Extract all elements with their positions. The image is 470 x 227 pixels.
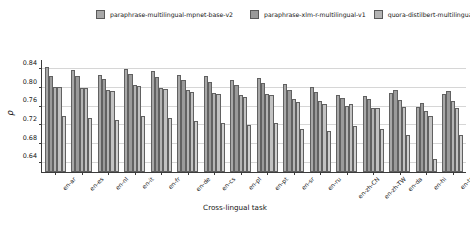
bar-group: [389, 60, 410, 172]
bar-group: [230, 60, 251, 172]
legend-swatch-icon: [374, 10, 383, 19]
x-tick-mark: [161, 172, 162, 175]
x-tick-mark: [188, 172, 189, 175]
x-tick-mark: [267, 172, 268, 175]
x-tick-label: en-cs: [221, 176, 237, 192]
bar-group: [45, 60, 66, 172]
x-tick-label: en-es: [89, 176, 105, 192]
x-tick-label: en-de: [195, 176, 211, 192]
bar: [327, 131, 331, 172]
bar-group: [204, 60, 225, 172]
bar: [194, 121, 198, 172]
bar: [247, 125, 251, 172]
x-axis-label: Cross-lingual task: [0, 203, 470, 212]
x-tick-mark: [108, 172, 109, 175]
x-tick-mark: [214, 172, 215, 175]
bar: [459, 135, 463, 172]
x-tick-label: en-ar: [62, 176, 77, 191]
bar: [221, 123, 225, 172]
bar: [62, 116, 66, 172]
y-tick-mark: [39, 106, 42, 107]
bar: [353, 126, 357, 172]
x-tick-label: en-zh-CN: [357, 176, 381, 200]
x-tick-mark: [241, 172, 242, 175]
x-tick-mark: [82, 172, 83, 175]
x-tick-label: en-hi: [433, 176, 448, 191]
figure: paraphrase-multilingual-mpnet-base-v2par…: [0, 0, 470, 227]
bar: [380, 129, 384, 172]
y-tick-label: 0.84: [23, 60, 37, 66]
x-tick-mark: [320, 172, 321, 175]
bar: [115, 120, 119, 172]
bar: [274, 123, 278, 172]
bar: [168, 118, 172, 172]
y-tick-label: 0.68: [23, 135, 37, 141]
x-tick-label: en-it: [141, 176, 155, 190]
legend-swatch-icon: [96, 10, 105, 19]
x-tick-mark: [426, 172, 427, 175]
x-tick-mark: [400, 172, 401, 175]
bar-group: [442, 60, 463, 172]
y-tick-mark: [39, 143, 42, 144]
x-tick-label: en-fr: [167, 176, 181, 190]
bar-group: [151, 60, 172, 172]
x-tick-label: en-pt: [274, 176, 289, 191]
x-tick-label: en-nl: [115, 176, 130, 191]
chart-legend: paraphrase-multilingual-mpnet-base-v2par…: [96, 8, 470, 20]
legend-item: paraphrase-xlm-r-multilingual-v1: [250, 8, 366, 20]
bar: [141, 116, 145, 172]
y-tick-mark: [39, 87, 42, 88]
bar-group: [336, 60, 357, 172]
x-tick-label: en-sr: [300, 176, 315, 191]
bar-group: [71, 60, 92, 172]
y-axis-label: ρ: [5, 110, 15, 115]
bar-group: [416, 60, 437, 172]
bar: [406, 135, 410, 172]
x-tick-label: en-pl: [247, 176, 262, 191]
legend-item-label: quora-distilbert-multilingual: [388, 11, 470, 18]
y-tick-label: 0.64: [23, 153, 37, 159]
bar-group: [177, 60, 198, 172]
bar-group: [363, 60, 384, 172]
x-tick-mark: [294, 172, 295, 175]
bar-group: [310, 60, 331, 172]
bar: [300, 129, 304, 172]
x-tick-mark: [55, 172, 56, 175]
bar-group: [257, 60, 278, 172]
bar-group: [283, 60, 304, 172]
y-tick-mark: [39, 68, 42, 69]
plot-area: 0.640.680.720.760.800.84: [41, 60, 466, 173]
y-tick-label: 0.76: [23, 97, 37, 103]
y-tick-mark: [39, 124, 42, 125]
legend-item-label: paraphrase-multilingual-mpnet-base-v2: [110, 11, 233, 18]
x-tick-mark: [373, 172, 374, 175]
bar: [88, 118, 92, 172]
x-tick-mark: [453, 172, 454, 175]
x-tick-mark: [135, 172, 136, 175]
legend-item: paraphrase-multilingual-mpnet-base-v2: [96, 8, 242, 20]
x-tick-label: en-da: [407, 176, 423, 192]
x-tick-label: en-zh-TW: [383, 176, 407, 200]
y-tick-label: 0.80: [23, 79, 37, 85]
x-tick-label: en-ru: [327, 176, 343, 192]
y-tick-label: 0.72: [23, 116, 37, 122]
legend-item-label: paraphrase-xlm-r-multilingual-v1: [264, 11, 366, 18]
bar: [433, 159, 437, 172]
x-tick-mark: [347, 172, 348, 175]
bar-group: [124, 60, 145, 172]
y-tick-mark: [39, 162, 42, 163]
bar-group: [98, 60, 119, 172]
legend-item: quora-distilbert-multilingual: [374, 8, 470, 20]
legend-swatch-icon: [250, 10, 259, 19]
x-tick-label: en-tr: [459, 176, 470, 190]
